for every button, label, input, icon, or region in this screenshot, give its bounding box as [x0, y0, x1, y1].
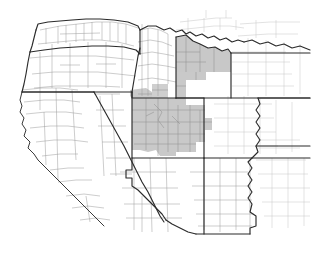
- western-us-county-map: [0, 0, 317, 271]
- north-utah-shaded-notch: [152, 84, 168, 98]
- map-container: [0, 0, 317, 271]
